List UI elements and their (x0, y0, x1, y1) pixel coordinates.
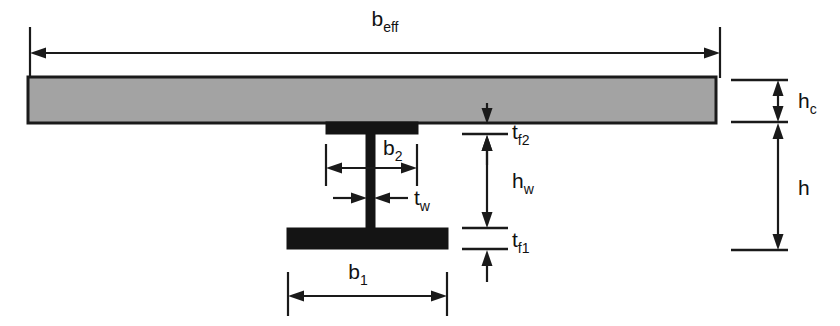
label-h: h (798, 176, 810, 199)
label-b-1: b1 (348, 260, 368, 288)
h-arrow-bottom (773, 234, 784, 250)
dimension-h-c (731, 80, 788, 122)
steel-bottom-flange (287, 228, 448, 249)
b-eff-arrow-right (704, 48, 720, 59)
concrete-slab (28, 77, 716, 123)
steel-web (366, 130, 375, 230)
label-h-w-subscript: w (523, 181, 535, 197)
b-2-arrow-right (401, 163, 417, 174)
label-h-c: hc (798, 89, 817, 117)
label-t-w-subscript: w (419, 198, 431, 214)
label-t-f1-subscript: f1 (518, 240, 530, 256)
dimension-h-w (482, 135, 493, 228)
label-t-w: tw (414, 186, 431, 214)
dimension-h (731, 123, 788, 250)
dimension-b-eff (30, 27, 720, 78)
t-f1-arrow-up (482, 250, 493, 266)
h-w-arrow-bottom (482, 212, 493, 228)
label-t-f1: tf1 (512, 228, 530, 256)
t-w-arrow-left (351, 193, 367, 204)
composite-beam-figure: beff b2 tw tf2 hw tf1 hc h (0, 0, 840, 326)
cross-section-diagram: beff b2 tw tf2 hw tf1 hc h (0, 0, 840, 326)
label-b-1-base: b (348, 260, 360, 283)
label-b-2-subscript: 2 (395, 148, 403, 164)
label-h-c-subscript: c (810, 101, 817, 117)
b-eff-arrow-left (30, 48, 46, 59)
section-shapes (28, 77, 716, 249)
t-w-arrow-right (374, 193, 390, 204)
h-w-arrow-top (482, 135, 493, 151)
label-b-eff-subscript: eff (383, 19, 398, 35)
b-2-arrow-left (326, 163, 342, 174)
b-1-arrow-right (431, 291, 447, 302)
label-h-c-base: h (798, 89, 810, 112)
label-b-2: b2 (383, 136, 403, 164)
label-t-f2-subscript: f2 (518, 132, 530, 148)
label-b-eff: beff (372, 7, 399, 35)
label-h-base: h (798, 176, 810, 199)
label-b-2-base: b (383, 136, 395, 159)
label-b-eff-base: b (372, 7, 384, 30)
label-h-w: hw (512, 169, 535, 197)
label-h-w-base: h (512, 169, 524, 192)
h-c-arrow-bottom (773, 106, 784, 122)
h-c-arrow-top (773, 80, 784, 96)
b-1-arrow-left (288, 291, 304, 302)
h-arrow-top (773, 123, 784, 139)
label-b-1-subscript: 1 (360, 272, 368, 288)
dimension-t-f1 (462, 228, 508, 282)
